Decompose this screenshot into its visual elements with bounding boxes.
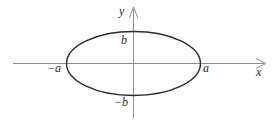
vertex-label-neg-b: −b — [114, 96, 128, 108]
vertex-label-neg-a: −a — [47, 62, 61, 74]
vertex-label-b: b — [121, 34, 127, 46]
diagram-canvas — [0, 0, 279, 128]
y-axis-label: y — [119, 5, 124, 17]
vertex-label-a: a — [203, 62, 209, 74]
ellipse-diagram: a −a b −b x y — [0, 0, 279, 128]
x-axis-label: x — [256, 66, 261, 78]
